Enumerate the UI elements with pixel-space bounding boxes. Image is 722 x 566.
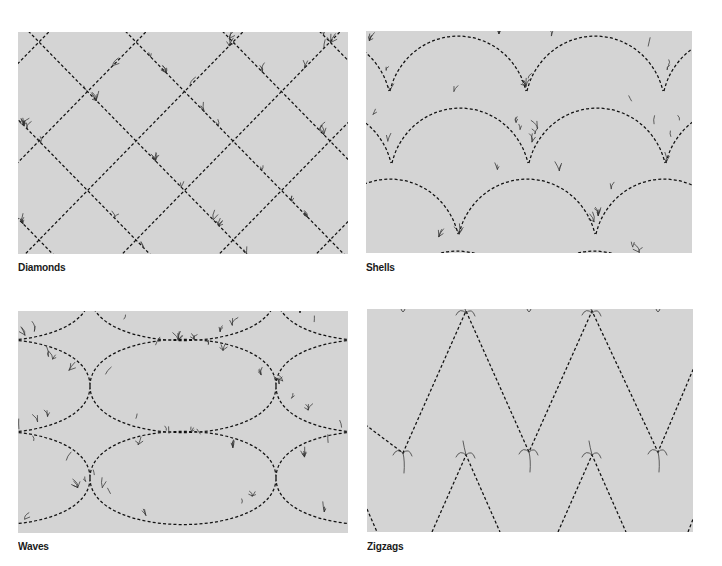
waves-quilting-pattern xyxy=(18,311,348,533)
caption-diamonds: Diamonds xyxy=(18,261,66,273)
caption-waves: Waves xyxy=(18,540,49,552)
shells-quilting-pattern xyxy=(366,31,692,253)
caption-zigzags: Zigzags xyxy=(367,540,403,552)
zigzags-quilting-pattern xyxy=(367,309,693,532)
caption-shells: Shells xyxy=(366,261,395,273)
diamonds-quilting-pattern xyxy=(18,32,348,254)
